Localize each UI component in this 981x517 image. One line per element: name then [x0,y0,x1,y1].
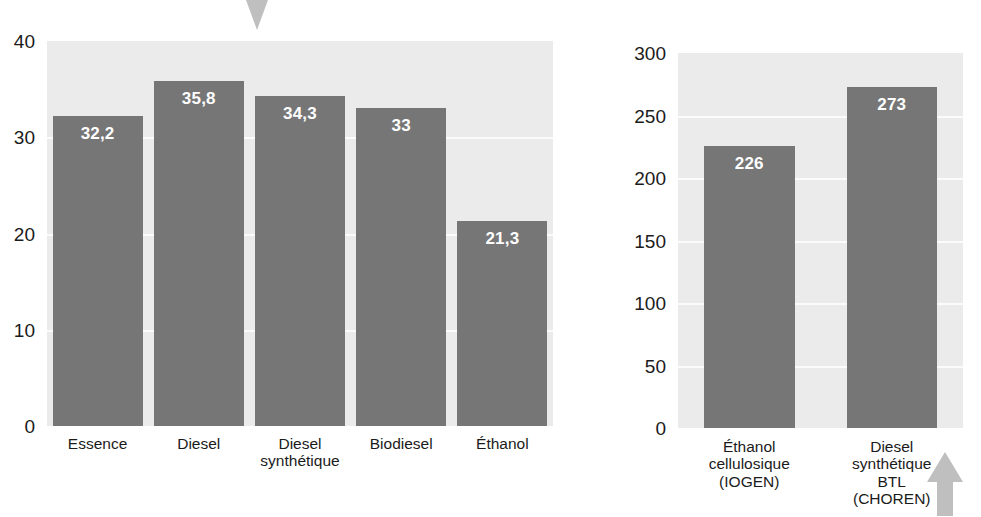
bar: 21,3 [457,221,547,426]
bar-value-label: 226 [704,154,795,174]
y-tick-label: 200 [610,169,666,188]
y-tick-label: 30 [0,128,35,147]
bar-value-label: 32,2 [53,124,143,144]
y-tick-label: 40 [0,32,35,51]
y-tick-label: 20 [0,225,35,244]
bar-value-label: 21,3 [457,229,547,249]
bar-value-label: 273 [847,95,938,115]
bar: 273 [847,87,938,428]
bar: 226 [704,146,795,429]
bar: 34,3 [255,96,345,426]
y-tick-label: 300 [610,44,666,63]
x-tick-label: Éthanol [435,435,569,452]
arrow-up-icon [925,452,965,516]
bar-value-label: 33 [356,116,446,136]
y-tick-label: 0 [0,417,35,436]
bar: 32,2 [53,116,143,426]
bar: 33 [356,108,446,426]
y-tick-label: 50 [610,357,666,376]
bar-value-label: 35,8 [154,89,244,109]
y-tick-label: 250 [610,107,666,126]
y-tick-label: 150 [610,232,666,251]
y-tick-label: 100 [610,294,666,313]
y-tick-label: 10 [0,321,35,340]
bar-chart-right: 050100150200250300 226273 Éthanol cellul… [610,0,981,517]
y-tick-label: 0 [610,419,666,438]
bar: 35,8 [154,81,244,426]
bar-value-label: 34,3 [255,104,345,124]
bar-chart-left: 010203040 32,235,834,33321,3 EssenceDies… [0,0,560,517]
x-tick-label: Éthanol cellulosique (IOGEN) [682,438,817,490]
arrow-down-icon [225,0,289,32]
